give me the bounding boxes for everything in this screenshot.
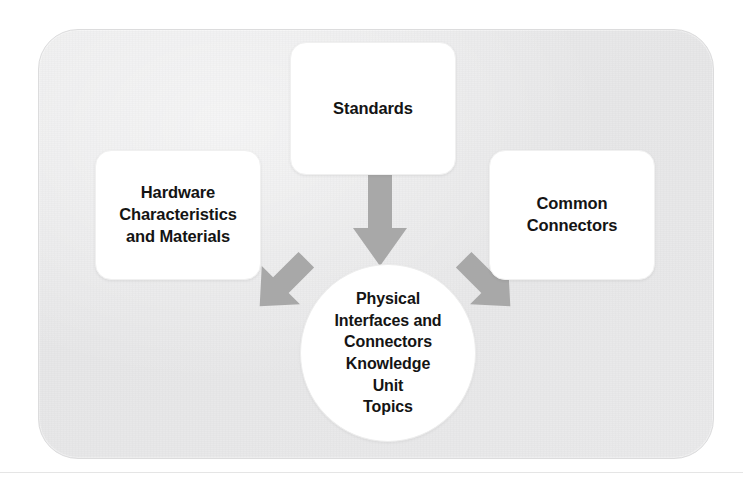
node-center-line-1: Physical (356, 290, 420, 307)
node-center-label: Physical Interfaces and Connectors Knowl… (334, 288, 441, 418)
node-hardware-label: Hardware Characteristics and Materials (119, 182, 237, 247)
node-center-line-2: Interfaces and (334, 312, 441, 329)
node-center-line-5: Unit (373, 377, 404, 394)
node-standards-label: Standards (333, 98, 413, 120)
page-rule-divider (0, 472, 743, 473)
node-center-line-4: Knowledge (346, 355, 430, 372)
diagram-title: Physical Interfaces and Connectors Knowl… (0, 21, 1, 22)
node-hardware-characteristics-and-materials[interactable]: Hardware Characteristics and Materials (95, 150, 261, 280)
node-center-line-6: Topics (363, 398, 413, 415)
node-connectors-line-2: Connectors (527, 216, 618, 234)
node-standards[interactable]: Standards (290, 42, 456, 175)
node-connectors-label: Common Connectors (527, 193, 618, 237)
arrow-standards-to-center (352, 172, 408, 268)
node-center-knowledge-unit-topics[interactable]: Physical Interfaces and Connectors Knowl… (300, 264, 476, 442)
node-connectors-line-1: Common (537, 194, 608, 212)
node-center-line-3: Connectors (344, 333, 432, 350)
node-hardware-line-3: and Materials (126, 227, 230, 245)
node-hardware-line-2: Characteristics (119, 205, 237, 223)
node-standards-line-1: Standards (333, 99, 413, 117)
node-common-connectors[interactable]: Common Connectors (489, 150, 655, 280)
diagram-page: and supported by of Materials ad protoco… (0, 0, 743, 485)
node-hardware-line-1: Hardware (141, 183, 215, 201)
